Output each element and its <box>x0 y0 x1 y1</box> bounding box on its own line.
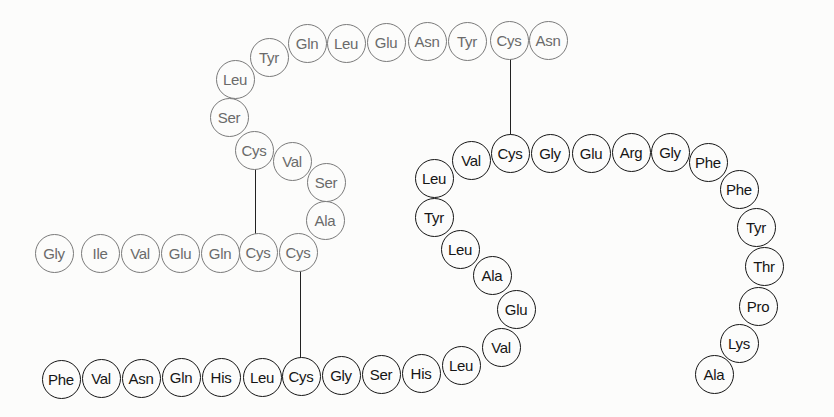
residue-phe: Phe <box>720 170 759 209</box>
residue-glu: Glu <box>572 134 611 173</box>
residue-leu: Leu <box>216 60 255 99</box>
residue-asn: Asn <box>408 22 447 61</box>
residue-tyr: Tyr <box>250 38 289 77</box>
disulfide-bond <box>510 50 511 143</box>
residue-gly: Gly <box>651 133 690 172</box>
residue-tyr: Tyr <box>737 208 776 247</box>
residue-leu: Leu <box>441 230 480 269</box>
residue-ala: Ala <box>473 256 512 295</box>
residue-cys: Cys <box>235 131 274 170</box>
residue-ala: Ala <box>695 355 734 394</box>
residue-gly: Gly <box>531 134 570 173</box>
residue-thr: Thr <box>745 247 784 286</box>
residue-gln: Gln <box>288 24 327 63</box>
residue-ala: Ala <box>306 201 345 240</box>
insulin-structure-diagram: GlyIleValGluGlnCysCysAlaSerValCysSerLeuT… <box>0 0 834 417</box>
residue-gly: Gly <box>322 356 361 395</box>
residue-cys: Cys <box>239 233 278 272</box>
residue-pro: Pro <box>739 287 778 326</box>
residue-asn: Asn <box>122 359 161 398</box>
residue-glu: Glu <box>161 234 200 273</box>
residue-ser: Ser <box>362 355 401 394</box>
residue-val: Val <box>482 328 521 367</box>
residue-phe: Phe <box>689 143 728 182</box>
residue-cys: Cys <box>279 233 318 272</box>
residue-his: His <box>202 358 241 397</box>
residue-phe: Phe <box>42 360 81 399</box>
residue-cys: Cys <box>282 357 321 396</box>
residue-leu: Leu <box>243 358 282 397</box>
residue-val: Val <box>273 142 312 181</box>
residue-arg: Arg <box>612 133 651 172</box>
residue-ser: Ser <box>307 163 346 202</box>
residue-gly: Gly <box>35 234 74 273</box>
residue-lys: Lys <box>720 324 759 363</box>
disulfide-bond <box>300 262 301 366</box>
residue-val: Val <box>452 141 491 180</box>
residue-ser: Ser <box>210 98 249 137</box>
residue-his: His <box>402 354 441 393</box>
residue-leu: Leu <box>415 159 454 198</box>
residue-cys: Cys <box>491 134 530 173</box>
residue-val: Val <box>82 359 121 398</box>
residue-leu: Leu <box>442 346 481 385</box>
residue-tyr: Tyr <box>415 198 454 237</box>
residue-val: Val <box>121 234 160 273</box>
residue-asn: Asn <box>529 21 568 60</box>
residue-tyr: Tyr <box>448 22 487 61</box>
residue-gln: Gln <box>201 234 240 273</box>
residue-gln: Gln <box>162 358 201 397</box>
residue-ile: Ile <box>81 234 120 273</box>
residue-leu: Leu <box>327 24 366 63</box>
residue-glu: Glu <box>497 290 536 329</box>
disulfide-bond <box>255 160 256 242</box>
residue-cys: Cys <box>490 21 529 60</box>
residue-glu: Glu <box>367 23 406 62</box>
